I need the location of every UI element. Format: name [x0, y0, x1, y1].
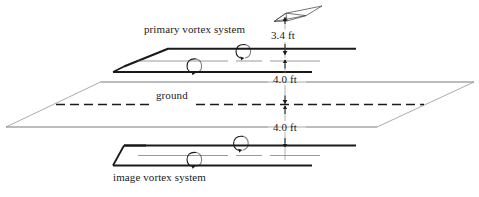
label-ground: ground: [156, 90, 188, 101]
label-image-vortex-system: image vortex system: [113, 172, 206, 183]
label-height-4-0ft-lower: 4.0 ft: [273, 122, 297, 133]
label-height-4-0ft-upper: 4.0 ft: [273, 74, 297, 85]
label-height-3-4ft: 3.4 ft: [271, 30, 295, 41]
label-primary-vortex-system: primary vortex system: [144, 24, 245, 35]
